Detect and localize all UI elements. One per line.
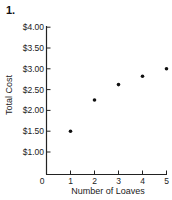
y-tick-label: $2.50 bbox=[23, 85, 45, 95]
x-tick-label: 3 bbox=[116, 176, 121, 186]
data-points bbox=[69, 67, 169, 133]
x-tick-label: 2 bbox=[92, 176, 97, 186]
y-tick-label: $1.50 bbox=[23, 126, 45, 136]
y-tick-label: $3.00 bbox=[23, 64, 45, 74]
y-tick-label: $1.00 bbox=[23, 147, 45, 157]
x-axis-title: Number of Loaves bbox=[71, 186, 145, 196]
x-tick-label: 4 bbox=[140, 176, 145, 186]
x-tick-label: 1 bbox=[68, 176, 73, 186]
data-point bbox=[69, 129, 73, 133]
data-point bbox=[141, 74, 145, 78]
x-tick-label: 0 bbox=[40, 176, 45, 186]
y-tick-label: $3.50 bbox=[23, 43, 45, 53]
y-tick-label: $2.00 bbox=[23, 105, 45, 115]
x-tick-label: 5 bbox=[164, 176, 169, 186]
scatter-chart: 1. Total Cost Number of Loaves $1.00$1.5… bbox=[0, 0, 172, 200]
data-point bbox=[165, 67, 169, 71]
y-tick-label: $4.00 bbox=[23, 22, 45, 32]
y-axis-title: Total Cost bbox=[4, 74, 14, 115]
data-point bbox=[117, 83, 121, 87]
x-axis-ticks: 012345 bbox=[40, 171, 170, 187]
problem-number: 1. bbox=[6, 4, 15, 16]
data-point bbox=[93, 98, 97, 102]
